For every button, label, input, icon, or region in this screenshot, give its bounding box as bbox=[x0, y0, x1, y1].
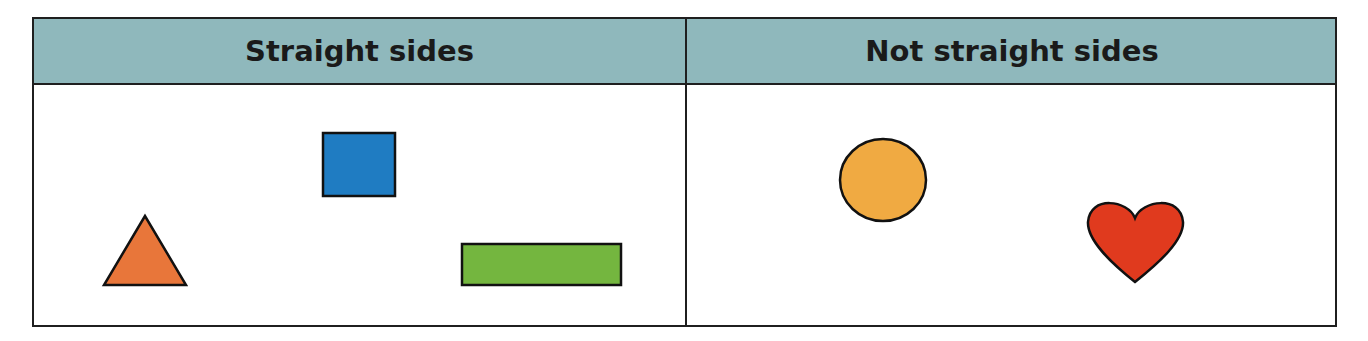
rectangle-shape bbox=[462, 244, 621, 285]
shapes-layer bbox=[0, 0, 1368, 341]
heart-shape bbox=[1088, 203, 1183, 282]
triangle-shape bbox=[104, 216, 186, 285]
circle-shape bbox=[840, 139, 926, 221]
square-shape bbox=[323, 133, 395, 196]
